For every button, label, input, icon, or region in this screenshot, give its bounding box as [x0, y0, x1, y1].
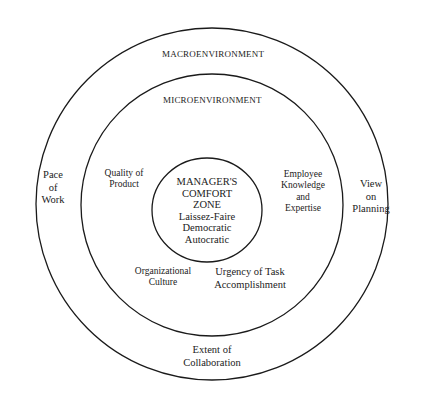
style-laissez-faire: Laissez-Faire: [157, 211, 257, 223]
pace-of-work-label: Pace of Work: [30, 169, 76, 207]
extent-of-collaboration-label: Extent of Collaboration: [162, 344, 262, 369]
urgency-of-task-label: Urgency of Task Accomplishment: [205, 266, 295, 291]
quality-line-2: Product: [94, 179, 154, 190]
pace-line-3: Work: [30, 194, 76, 207]
employee-knowledge-label: Employee Knowledge and Expertise: [274, 169, 332, 215]
collab-line-2: Collaboration: [162, 357, 262, 370]
microenvironment-label: MICROENVIRONMENT: [163, 95, 259, 106]
microenvironment-text: MICROENVIRONMENT: [163, 95, 259, 106]
pace-line-2: of: [30, 182, 76, 195]
culture-line-1: Organizational: [130, 266, 196, 277]
style-democratic: Democratic: [157, 222, 257, 234]
style-autocratic: Autocratic: [157, 234, 257, 246]
knowledge-line-1: Employee: [274, 169, 332, 180]
organizational-culture-label: Organizational Culture: [130, 266, 196, 289]
macroenvironment-text: MACROENVIRONMENT: [162, 49, 262, 60]
knowledge-line-4: Expertise: [274, 203, 332, 214]
pace-line-1: Pace: [30, 169, 76, 182]
urgency-line-2: Accomplishment: [205, 279, 295, 292]
view-line-1: View: [346, 178, 396, 191]
urgency-line-1: Urgency of Task: [205, 266, 295, 279]
comfort-zone-label: MANAGER'S COMFORT ZONE Laissez-Faire Dem…: [157, 176, 257, 245]
comfort-line-2: COMFORT: [157, 188, 257, 200]
comfort-line-1: MANAGER'S: [157, 176, 257, 188]
culture-line-2: Culture: [130, 277, 196, 288]
quality-of-product-label: Quality of Product: [94, 168, 154, 191]
macroenvironment-label: MACROENVIRONMENT: [162, 49, 262, 60]
view-line-3: Planning: [346, 203, 396, 216]
knowledge-line-2: Knowledge: [274, 180, 332, 191]
quality-line-1: Quality of: [94, 168, 154, 179]
view-line-2: on: [346, 191, 396, 204]
view-on-planning-label: View on Planning: [346, 178, 396, 216]
comfort-line-3: ZONE: [157, 199, 257, 211]
collab-line-1: Extent of: [162, 344, 262, 357]
knowledge-line-3: and: [274, 192, 332, 203]
